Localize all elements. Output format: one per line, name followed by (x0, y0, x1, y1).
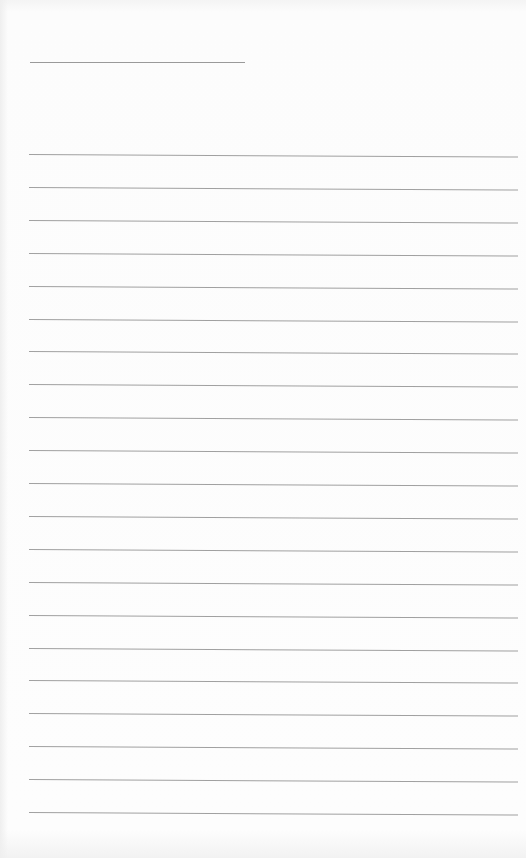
ruled-line (29, 450, 518, 454)
ruled-line (29, 220, 518, 224)
ruled-line (29, 812, 518, 816)
ruled-line (29, 746, 518, 750)
ruled-line (29, 713, 518, 717)
ruled-line (29, 351, 518, 355)
ruled-line (29, 319, 518, 323)
ruled-line (29, 549, 518, 553)
title-line (30, 62, 245, 63)
ruled-line (29, 680, 518, 684)
ruled-line (29, 582, 518, 586)
ruled-line (29, 253, 518, 257)
ruled-line (29, 154, 518, 158)
ruled-line (29, 648, 518, 652)
ruled-line (29, 187, 518, 191)
paper-edge-shadow (0, 0, 8, 858)
ruled-line (29, 483, 518, 487)
ruled-line (29, 516, 518, 520)
ruled-line (29, 779, 518, 783)
ruled-line (29, 286, 518, 290)
ruled-line (29, 615, 518, 619)
lined-paper-sheet (0, 0, 526, 858)
ruled-line (29, 384, 518, 388)
ruled-line (29, 417, 518, 421)
